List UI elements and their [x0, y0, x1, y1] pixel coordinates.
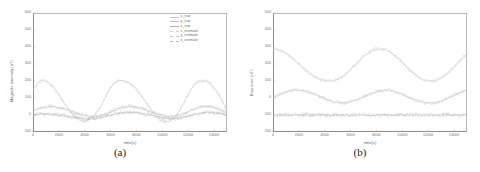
y-tick-label: 400 [265, 28, 271, 32]
legend-label: z_estimate [181, 39, 198, 43]
x-tick-label: 8000 [132, 134, 140, 138]
legend-a: x_truey_truez_truex_estimatey_estimatez_… [170, 15, 198, 43]
y-tick-label: 0 [29, 113, 31, 117]
legend-swatch-icon [170, 26, 179, 27]
x-tick-label: 6000 [346, 134, 354, 138]
series-line [273, 88, 467, 105]
legend-swatch-icon [170, 21, 179, 22]
legend-swatch-icon [170, 36, 179, 37]
y-tick-label: 0 [269, 96, 271, 100]
chart-panel-b: 5004003002001000-100-200 020004000600080… [240, 0, 480, 172]
y-tick-label: 200 [265, 62, 271, 66]
x-axis-label-b: time(s) [273, 140, 467, 145]
series-line [33, 79, 227, 124]
x-tick-label: 10000 [397, 134, 408, 138]
y-axis-label-a: Magnetic anomaly (nT) [9, 60, 14, 102]
series-line [273, 90, 467, 104]
x-tick-label: 12000 [183, 134, 194, 138]
y-tick-label: -200 [263, 130, 271, 134]
chart-panel-a: 6005004003002001000-100 0200040006000800… [0, 0, 240, 172]
series-line [273, 48, 467, 82]
series-line [273, 113, 467, 118]
panel-caption-b: (b) [240, 146, 480, 158]
y-axis-label-b: Bias error (nT) [249, 69, 254, 96]
y-tick-label: 200 [25, 79, 31, 83]
x-tick-label: 12000 [423, 134, 434, 138]
figure-container: 6005004003002001000-100 0200040006000800… [0, 0, 480, 172]
y-tick-label: 500 [265, 11, 271, 15]
y-tick-label: 400 [25, 45, 31, 49]
legend-swatch-icon [170, 41, 179, 42]
plot-svg-b [240, 0, 480, 146]
x-tick-label: 0 [32, 134, 34, 138]
x-tick-label: 2000 [295, 134, 303, 138]
x-tick-label: 14000 [449, 134, 460, 138]
plot-svg-a [0, 0, 240, 146]
plot-area-b: 5004003002001000-100-200 020004000600080… [240, 0, 480, 146]
y-tick-label: 300 [265, 45, 271, 49]
y-axis-ticks-b: 5004003002001000-100-200 [241, 13, 271, 132]
legend-swatch-icon [170, 31, 179, 32]
x-tick-label: 14000 [209, 134, 220, 138]
legend-label: z_true [181, 25, 191, 29]
x-axis-label-a: time(s) [33, 140, 227, 145]
y-tick-label: 100 [265, 79, 271, 83]
legend-swatch-icon [170, 17, 179, 18]
y-tick-label: 500 [25, 28, 31, 32]
x-tick-label: 10000 [157, 134, 168, 138]
y-tick-label: 600 [25, 11, 31, 15]
series-line [33, 80, 227, 122]
panel-caption-a: (a) [0, 146, 240, 158]
y-tick-label: 100 [25, 96, 31, 100]
x-tick-label: 6000 [106, 134, 114, 138]
x-tick-label: 8000 [372, 134, 380, 138]
plot-area-a: 6005004003002001000-100 0200040006000800… [0, 0, 240, 146]
x-tick-label: 4000 [81, 134, 89, 138]
y-tick-label: 300 [25, 62, 31, 66]
x-tick-label: 4000 [321, 134, 329, 138]
y-axis-ticks-a: 6005004003002001000-100 [1, 13, 31, 132]
x-tick-label: 2000 [55, 134, 63, 138]
x-tick-label: 0 [272, 134, 274, 138]
y-tick-label: -100 [23, 130, 31, 134]
y-tick-label: -100 [263, 113, 271, 117]
legend-item: z_estimate [170, 39, 198, 43]
